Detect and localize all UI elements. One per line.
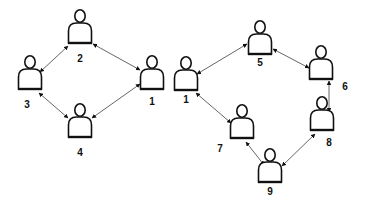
person-icon (18, 56, 42, 89)
person-icon (174, 57, 198, 90)
nodes-layer: 1234156789 (18, 10, 348, 197)
person-body (69, 23, 92, 43)
node-L1: 1 (140, 56, 164, 107)
graph-right-ring: 156789 (174, 21, 348, 197)
person-head (265, 149, 275, 161)
node-label: 6 (342, 81, 348, 92)
node-label: 3 (24, 99, 30, 110)
person-head (75, 10, 85, 22)
graph-left-ring: 1234 (18, 10, 164, 158)
node-R1: 1 (174, 57, 198, 105)
node-label: 4 (77, 147, 83, 158)
node-L4: 4 (68, 104, 92, 158)
person-icon (258, 149, 282, 182)
person-head (181, 57, 191, 69)
edge-R1-R7 (196, 93, 231, 123)
node-label: 9 (267, 186, 273, 197)
person-icon (140, 56, 164, 89)
person-body (249, 34, 272, 54)
node-label: 1 (149, 96, 155, 107)
person-head (237, 105, 247, 117)
edge-L2-L3 (40, 46, 68, 72)
person-icon (310, 97, 334, 130)
node-label: 7 (217, 143, 223, 154)
person-body (231, 118, 254, 138)
person-icon (230, 105, 254, 138)
person-icon (309, 46, 333, 79)
person-head (316, 46, 326, 58)
node-L3: 3 (18, 56, 42, 110)
person-head (317, 97, 327, 109)
node-R8: 8 (310, 97, 334, 148)
person-body (175, 70, 198, 90)
node-R9: 9 (258, 149, 282, 197)
edge-L2-L1 (93, 44, 140, 70)
edge-R1-R5 (197, 44, 247, 74)
person-head (75, 104, 85, 116)
node-label: 8 (326, 137, 332, 148)
person-head (25, 56, 35, 68)
edge-L3-L4 (39, 93, 68, 118)
person-head (255, 21, 265, 33)
edge-R9-R8 (282, 134, 315, 166)
person-icon (68, 10, 92, 43)
person-icon (248, 21, 272, 54)
node-label: 1 (183, 94, 189, 105)
node-R5: 5 (248, 21, 272, 68)
person-icon (68, 104, 92, 137)
person-head (147, 56, 157, 68)
node-R7: 7 (217, 105, 254, 154)
node-label: 5 (257, 57, 263, 68)
node-L2: 2 (68, 10, 92, 64)
edge-L4-L1 (92, 84, 140, 118)
node-label: 2 (77, 53, 83, 64)
network-diagram: 1234156789 (0, 0, 365, 203)
person-body (141, 69, 164, 89)
person-body (259, 162, 282, 182)
person-body (69, 117, 92, 137)
edge-R5-R6 (273, 49, 309, 68)
person-body (19, 69, 42, 89)
person-body (310, 59, 333, 79)
edge-R7-R9 (246, 142, 264, 165)
person-body (311, 110, 334, 130)
